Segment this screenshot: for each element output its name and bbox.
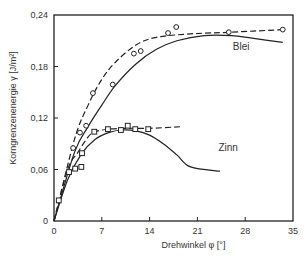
zinn-data-point bbox=[92, 129, 97, 134]
blei-data-point bbox=[78, 130, 83, 135]
zinn-data-point bbox=[119, 128, 124, 133]
y-tick-label: 0,18 bbox=[30, 62, 48, 72]
zinn-data-point bbox=[79, 165, 84, 170]
zinn-data-point bbox=[67, 170, 72, 175]
y-tick-label: 0 bbox=[43, 216, 48, 226]
x-tick-label: 35 bbox=[288, 226, 298, 236]
chart: 071421283500,060,120,180,24 BleiZinn Dre… bbox=[0, 0, 306, 263]
zinn-solid-curve bbox=[54, 130, 220, 221]
blei-data-point bbox=[226, 30, 231, 35]
blei-data-point bbox=[131, 51, 136, 56]
x-tick-label: 28 bbox=[240, 226, 250, 236]
x-tick-label: 21 bbox=[192, 226, 202, 236]
x-tick-label: 0 bbox=[51, 226, 56, 236]
labels: BleiZinn bbox=[218, 41, 249, 153]
plot-border bbox=[54, 15, 293, 221]
blei-data-point bbox=[138, 49, 143, 54]
axis-ticks: 071421283500,060,120,180,24 bbox=[30, 10, 298, 236]
y-axis-label: Korngrenzenenergie γ [J/m²] bbox=[8, 51, 18, 165]
zinn-data-point bbox=[80, 151, 85, 156]
zinn-data-point bbox=[73, 166, 78, 171]
blei-data-point bbox=[91, 91, 96, 96]
series-label-zinn: Zinn bbox=[218, 142, 237, 153]
series-label-blei: Blei bbox=[233, 41, 250, 52]
x-axis-label: Drehwinkel φ [°] bbox=[162, 240, 226, 250]
data-points bbox=[56, 25, 285, 203]
y-tick-label: 0,12 bbox=[30, 113, 48, 123]
blei-data-point bbox=[166, 31, 171, 36]
zinn-data-point bbox=[146, 127, 151, 132]
zinn-data-point bbox=[106, 127, 111, 132]
zinn-data-point bbox=[56, 198, 61, 203]
y-tick-label: 0,24 bbox=[30, 10, 48, 20]
blei-data-point bbox=[280, 27, 285, 32]
x-tick-label: 14 bbox=[145, 226, 155, 236]
zinn-dashed-curve bbox=[54, 127, 183, 221]
y-tick-label: 0,06 bbox=[30, 165, 48, 175]
blei-data-point bbox=[110, 82, 115, 87]
zinn-data-point bbox=[133, 127, 138, 132]
blei-data-point bbox=[71, 146, 76, 151]
blei-data-point bbox=[174, 25, 179, 30]
plot-frame bbox=[54, 15, 293, 221]
x-tick-label: 7 bbox=[99, 226, 104, 236]
blei-solid-curve bbox=[54, 35, 283, 221]
zinn-data-point bbox=[125, 123, 130, 128]
blei-data-point bbox=[84, 123, 89, 128]
